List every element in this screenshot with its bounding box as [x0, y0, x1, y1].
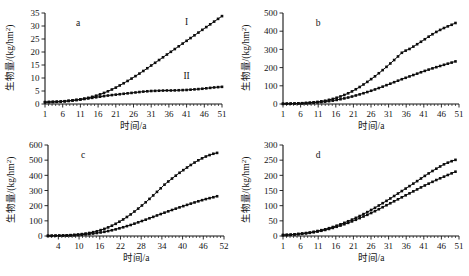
- data-point-marker: [362, 213, 365, 216]
- data-point-marker: [142, 90, 145, 93]
- data-point-marker: [339, 224, 342, 227]
- data-point-marker: [286, 102, 289, 105]
- data-point-marker: [96, 232, 99, 235]
- x-tick-label: 31: [384, 109, 393, 119]
- data-point-marker: [370, 212, 373, 215]
- data-point-marker: [282, 234, 285, 237]
- data-point-marker: [126, 80, 129, 83]
- data-point-marker: [217, 18, 220, 21]
- data-point-marker: [393, 200, 396, 203]
- x-tick-label: 51: [455, 241, 464, 251]
- x-tick-label: 46: [437, 241, 447, 251]
- panel-d-axes: [283, 145, 459, 236]
- x-tick-label: 16: [94, 109, 104, 119]
- x-tick-label: 22: [116, 241, 125, 251]
- data-point-marker: [189, 202, 192, 205]
- data-point-marker: [67, 100, 70, 103]
- y-tick-label: 30: [31, 21, 41, 31]
- data-point-marker: [213, 20, 216, 23]
- y-axis-title-d: 生物量/(kg/hm2): [240, 157, 252, 224]
- x-axis-title-d: 时间/a: [358, 252, 386, 263]
- data-point-marker: [177, 89, 180, 92]
- x-tick-label: 1: [281, 109, 286, 119]
- data-point-marker: [118, 227, 121, 230]
- data-point-marker: [297, 233, 300, 236]
- y-tick-label: 35: [31, 8, 41, 18]
- data-point-marker: [312, 101, 315, 104]
- data-point-marker: [174, 174, 177, 177]
- data-point-marker: [44, 101, 47, 104]
- data-point-marker: [221, 86, 224, 89]
- data-point-marker: [427, 68, 430, 71]
- data-point-marker: [389, 202, 392, 205]
- data-point-marker: [122, 218, 125, 221]
- data-point-marker: [189, 88, 192, 91]
- data-point-marker: [397, 79, 400, 82]
- data-point-marker: [351, 220, 354, 223]
- data-point-marker: [404, 77, 407, 80]
- data-point-marker: [381, 85, 384, 88]
- data-point-marker: [201, 87, 204, 90]
- data-point-marker: [166, 89, 169, 92]
- data-point-marker: [358, 93, 361, 96]
- data-point-marker: [381, 202, 384, 205]
- data-point-marker: [216, 195, 219, 198]
- data-point-marker: [397, 55, 400, 58]
- data-point-marker: [282, 103, 285, 106]
- data-point-marker: [144, 201, 147, 204]
- data-point-marker: [154, 61, 157, 64]
- x-tick-label: 26: [367, 241, 377, 251]
- data-point-marker: [166, 53, 169, 56]
- data-point-marker: [416, 43, 419, 46]
- data-point-marker: [408, 185, 411, 188]
- data-point-marker: [103, 231, 106, 234]
- data-point-marker: [122, 92, 125, 95]
- data-point-marker: [412, 190, 415, 193]
- data-point-marker: [205, 198, 208, 201]
- data-point-marker: [435, 167, 438, 170]
- data-point-marker: [293, 233, 296, 236]
- panel-c-axes: [48, 145, 224, 236]
- data-point-marker: [201, 157, 204, 160]
- data-point-marker: [389, 62, 392, 65]
- data-point-marker: [355, 88, 358, 91]
- data-point-marker: [156, 191, 159, 194]
- data-point-marker: [385, 204, 388, 207]
- data-point-marker: [450, 172, 453, 175]
- data-point-marker: [84, 233, 87, 236]
- panel-c-series: [47, 152, 219, 238]
- data-point-marker: [114, 228, 117, 231]
- data-point-marker: [297, 102, 300, 105]
- panel-d-y-ticks: 050100150200250300: [264, 140, 283, 241]
- data-point-marker: [362, 83, 365, 86]
- data-point-marker: [416, 180, 419, 183]
- data-point-marker: [450, 160, 453, 163]
- panel-label-d: d: [316, 150, 321, 160]
- data-point-marker: [370, 89, 373, 92]
- data-point-marker: [103, 92, 106, 95]
- y-tick-label: 400: [29, 171, 43, 181]
- data-point-marker: [378, 208, 381, 211]
- data-point-marker: [301, 102, 304, 105]
- data-point-marker: [197, 159, 200, 162]
- data-point-marker: [118, 220, 121, 223]
- series-line-lower: [283, 61, 455, 103]
- data-point-marker: [431, 33, 434, 36]
- data-point-marker: [185, 40, 188, 43]
- data-point-marker: [58, 234, 61, 237]
- data-point-marker: [439, 165, 442, 168]
- data-point-marker: [186, 166, 189, 169]
- data-point-marker: [141, 220, 144, 223]
- data-point-marker: [107, 90, 110, 93]
- x-tick-label: 51: [455, 109, 464, 119]
- data-point-marker: [439, 177, 442, 180]
- panel-c-y-ticks: 0100200300400500600: [29, 140, 48, 241]
- x-tick-label: 31: [384, 241, 393, 251]
- y-tick-label: 250: [264, 155, 278, 165]
- data-point-marker: [75, 99, 78, 102]
- y-axis-title-b: 生物量/(kg/hm2): [240, 25, 252, 92]
- data-point-marker: [447, 161, 450, 164]
- data-point-marker: [351, 95, 354, 98]
- data-point-marker: [77, 234, 80, 237]
- data-point-marker: [362, 92, 365, 95]
